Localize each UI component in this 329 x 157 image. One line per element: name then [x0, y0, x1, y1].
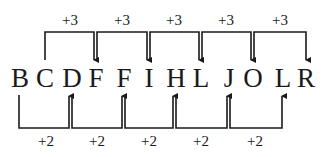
letter-series-diagram: +3 +3 +3 +3 +3 B C D F F I H L J O L R +…: [0, 0, 329, 157]
top-step-label: +3: [114, 12, 130, 28]
bottom-step-label: +2: [193, 133, 209, 149]
top-bracket-5: [254, 32, 306, 60]
letter: R: [297, 63, 315, 93]
bottom-bracket-5: [230, 96, 282, 128]
bottom-step-label: +2: [89, 133, 105, 149]
bottom-bracket-1: [19, 95, 69, 128]
letter: J: [224, 63, 235, 93]
top-step-label: +3: [166, 12, 182, 28]
letter: H: [166, 63, 186, 93]
top-bracket-2: [97, 32, 147, 60]
bottom-bracket-2: [72, 96, 122, 128]
bottom-bracket-3: [125, 96, 173, 128]
top-bracket-1: [45, 32, 94, 60]
bottom-step-label: +2: [247, 133, 263, 149]
letter: B: [11, 63, 29, 93]
top-step-label: +3: [62, 12, 78, 28]
top-step-label: +3: [272, 12, 288, 28]
letter: I: [145, 63, 154, 93]
bottom-step-label: +2: [141, 133, 157, 149]
letter: L: [193, 63, 210, 93]
top-bracket-4: [202, 32, 251, 60]
letter: F: [116, 63, 131, 93]
letter: O: [243, 63, 263, 93]
bottom-bracket-4: [176, 96, 227, 128]
letter: C: [36, 63, 54, 93]
letter: L: [275, 63, 292, 93]
top-step-label: +3: [218, 12, 234, 28]
letter: F: [88, 63, 103, 93]
top-bracket-3: [150, 32, 199, 60]
bottom-step-label: +2: [38, 133, 54, 149]
letter: D: [62, 63, 82, 93]
